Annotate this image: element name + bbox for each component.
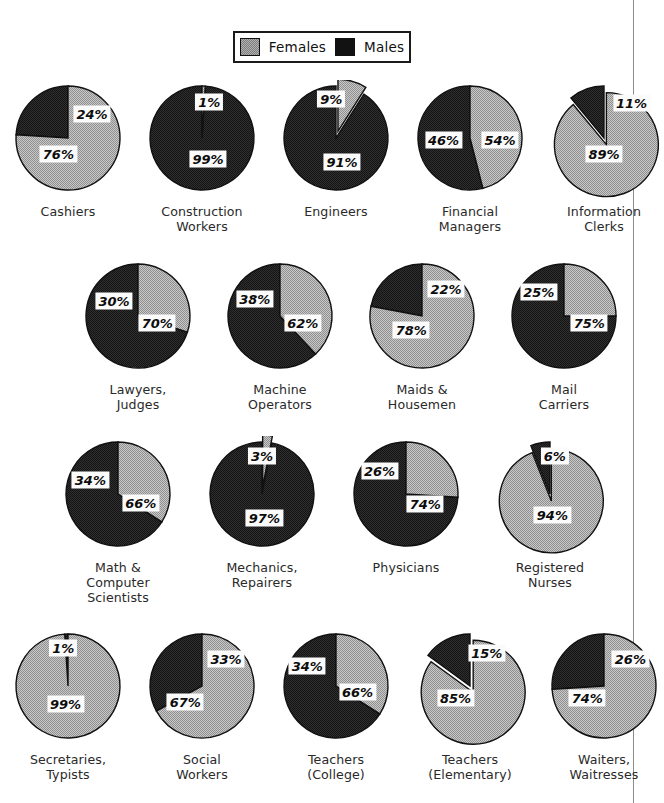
pie-chart-caption: Teachers (College) (307, 753, 365, 783)
pie-label-males: 62% (285, 315, 320, 330)
pie-chart-cell: 74%26%Waiters, Waitresses (544, 628, 664, 783)
pie-label-males: 33% (208, 652, 243, 667)
pie-chart: 9%91% (276, 80, 396, 200)
pie-label-females: 34% (73, 473, 108, 488)
pie-slice-males (552, 634, 604, 689)
pie-chart-cell: 67%33%Social Workers (142, 628, 262, 783)
pie-row-2: 30%70%Lawyers, Judges38%62%Machine Opera… (78, 258, 624, 413)
pie-chart-caption: Cashiers (41, 205, 96, 220)
pie-label-females: 94% (535, 508, 570, 523)
pie-label-males: 70% (140, 315, 175, 330)
pie-chart-caption: Waiters, Waitresses (570, 753, 639, 783)
pie-chart: 46%54% (410, 80, 530, 200)
pie-label-females: 1% (196, 94, 222, 109)
pie-label-males: 75% (572, 315, 607, 330)
chart-legend: Females Males (233, 31, 411, 63)
pie-chart: 26%74% (346, 436, 466, 556)
pie-row-4: 99%1%Secretaries, Typists67%33%Social Wo… (8, 628, 664, 783)
pie-chart-cell: 46%54%Financial Managers (410, 80, 530, 235)
male-swatch-icon (335, 38, 355, 56)
pie-label-males: 22% (428, 282, 463, 297)
pie-chart-caption: Lawyers, Judges (110, 383, 167, 413)
pie-chart-cell: 34%66%Teachers (College) (276, 628, 396, 783)
pie-label-females: 78% (394, 323, 429, 338)
pie-chart: 85%15% (410, 628, 530, 748)
pie-chart-cell: 1%99%Construction Workers (142, 80, 262, 235)
legend-label-females: Females (269, 39, 326, 55)
pie-label-females: 76% (41, 147, 76, 162)
pie-chart-caption: Machine Operators (248, 383, 312, 413)
pie-chart-cell: 26%74%Physicians (346, 436, 466, 606)
pie-label-females: 25% (521, 284, 556, 299)
legend-label-males: Males (364, 39, 404, 55)
pie-chart-cell: 76%24%Cashiers (8, 80, 128, 235)
pie-label-females: 74% (570, 690, 605, 705)
pie-chart: 94%6% (490, 436, 610, 556)
pie-chart-cell: 3%97%Mechanics, Repairers (202, 436, 322, 606)
pie-chart: 99%1% (8, 628, 128, 748)
pie-label-females: 30% (96, 294, 131, 309)
pie-label-males: 26% (613, 652, 648, 667)
pie-label-females: 9% (318, 92, 344, 107)
pie-chart: 67%33% (142, 628, 262, 748)
pie-chart: 38%62% (220, 258, 340, 378)
pie-label-females: 85% (438, 690, 473, 705)
pie-chart: 74%26% (544, 628, 664, 748)
pie-chart-caption: Maids & Housemen (388, 383, 456, 413)
pie-chart-cell: 38%62%Machine Operators (220, 258, 340, 413)
pie-chart: 89%11% (544, 80, 664, 200)
pie-chart-caption: Math & Computer Scientists (86, 561, 149, 606)
pie-chart-cell: 89%11%Information Clerks (544, 80, 664, 235)
pie-label-males: 6% (542, 449, 568, 464)
pie-chart: 34%66% (58, 436, 178, 556)
pie-row-3: 34%66%Math & Computer Scientists3%97%Mec… (58, 436, 610, 606)
pie-chart-cell: 99%1%Secretaries, Typists (8, 628, 128, 783)
pie-label-males: 54% (482, 133, 517, 148)
pie-chart-cell: 30%70%Lawyers, Judges (78, 258, 198, 413)
female-swatch-icon (240, 38, 260, 56)
pie-chart: 1%99% (142, 80, 262, 200)
pie-label-males: 24% (74, 106, 109, 121)
legend-item-males: Males (335, 38, 404, 56)
pie-label-males: 15% (469, 646, 504, 661)
pie-slice-males (16, 86, 68, 138)
pie-chart-cell: 85%15%Teachers (Elementary) (410, 628, 530, 783)
pie-label-females: 99% (48, 696, 83, 711)
pie-label-females: 26% (362, 463, 397, 478)
pie-label-males: 11% (614, 95, 649, 110)
pie-chart-caption: Physicians (373, 561, 440, 576)
legend-item-females: Females (240, 38, 326, 56)
pie-slice-females (499, 449, 603, 553)
pie-chart-caption: Engineers (304, 205, 368, 220)
pie-chart-cell: 25%75%Mail Carriers (504, 258, 624, 413)
pie-chart-caption: Information Clerks (567, 205, 641, 235)
pie-label-males: 1% (50, 641, 76, 656)
pie-label-males: 74% (408, 497, 443, 512)
pie-chart-caption: Mechanics, Repairers (226, 561, 297, 591)
pie-label-males: 66% (123, 496, 158, 511)
pie-label-females: 46% (426, 133, 461, 148)
pie-chart: 30%70% (78, 258, 198, 378)
pie-chart-caption: Construction Workers (161, 205, 242, 235)
pie-label-males: 97% (247, 510, 282, 525)
pie-chart: 76%24% (8, 80, 128, 200)
pie-slice-females (564, 264, 616, 316)
pie-chart: 34%66% (276, 628, 396, 748)
pie-row-1: 76%24%Cashiers1%99%Construction Workers9… (8, 80, 664, 235)
pie-chart-cell: 94%6%Registered Nurses (490, 436, 610, 606)
pie-slice-females (406, 442, 458, 497)
pie-label-males: 91% (324, 154, 359, 169)
pie-chart-caption: Financial Managers (439, 205, 502, 235)
pie-chart-cell: 9%91%Engineers (276, 80, 396, 235)
pie-label-females: 34% (290, 659, 325, 674)
pie-label-females: 38% (237, 291, 272, 306)
pie-chart-cell: 78%22%Maids & Housemen (362, 258, 482, 413)
pie-chart-caption: Social Workers (176, 753, 228, 783)
pie-chart: 3%97% (202, 436, 322, 556)
pie-chart-caption: Mail Carriers (539, 383, 589, 413)
pie-chart-caption: Registered Nurses (516, 561, 584, 591)
pie-label-males: 99% (190, 152, 225, 167)
pie-label-females: 3% (249, 449, 275, 464)
pie-chart-cell: 34%66%Math & Computer Scientists (58, 436, 178, 606)
